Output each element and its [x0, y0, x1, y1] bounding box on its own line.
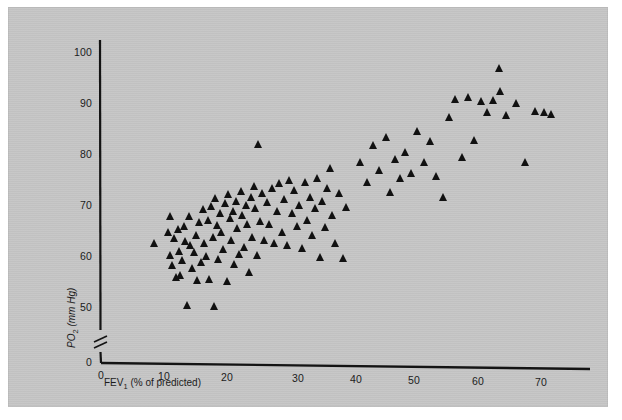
scatter-point	[180, 222, 188, 230]
scatter-point	[175, 247, 183, 255]
scatter-point	[223, 277, 231, 285]
x-axis-title-base: FEV	[104, 377, 123, 388]
scatter-point	[250, 182, 258, 190]
scatter-point	[202, 252, 210, 260]
scatter-point	[386, 188, 394, 196]
scatter-point	[313, 174, 321, 182]
scatter-point	[229, 207, 237, 215]
scatter-point	[270, 239, 278, 247]
scatter-point	[496, 87, 504, 95]
scatter-point	[166, 251, 174, 259]
scatter-point	[439, 193, 447, 201]
scatter-point	[195, 218, 203, 226]
scatter-point	[190, 248, 198, 256]
scatter-point	[477, 97, 485, 105]
scatter-point	[432, 172, 440, 180]
scatter-point	[342, 203, 350, 211]
scatter-point	[308, 231, 316, 239]
y-axis-title-rest: (mm Hg)	[66, 288, 77, 330]
scatter-point	[226, 214, 234, 222]
scatter-point	[512, 99, 520, 107]
x-tick-label-30: 30	[289, 372, 307, 384]
scatter-point	[326, 164, 334, 172]
scatter-point	[323, 184, 331, 192]
x-tick-label-60: 60	[469, 375, 487, 387]
x-tick-label-20: 20	[218, 371, 236, 383]
scatter-point	[265, 220, 273, 228]
scatter-point	[219, 245, 227, 253]
scatter-point	[217, 228, 225, 236]
scatter-point	[166, 212, 174, 220]
scatter-point	[233, 224, 241, 232]
scatter-point	[224, 190, 232, 198]
scatter-point	[445, 113, 453, 121]
scatter-point	[396, 174, 404, 182]
scatter-point	[253, 251, 261, 259]
scatter-point	[521, 158, 529, 166]
scatter-point	[382, 133, 390, 141]
scatter-point	[227, 236, 235, 244]
scatter-point	[263, 198, 271, 206]
scatter-point	[185, 212, 193, 220]
scatter-point	[258, 189, 266, 197]
scatter-point	[183, 301, 191, 309]
scatter-point	[407, 169, 415, 177]
scatter-point	[451, 95, 459, 103]
scatter-point	[375, 166, 383, 174]
x-tick-label-70: 70	[532, 376, 550, 388]
y-tick-label-60: 60	[68, 250, 92, 262]
scatter-point	[290, 186, 298, 194]
scatter-point	[464, 93, 472, 101]
y-tick-label-100: 100	[68, 46, 92, 58]
figure-container: 100 90 80 70 60 50 0 0 10 20 30 40 50 60…	[0, 0, 622, 420]
scatter-point	[238, 211, 246, 219]
scatter-point	[288, 209, 296, 217]
scatter-point	[176, 271, 184, 279]
scatter-point	[242, 201, 250, 209]
scatter-point	[293, 222, 301, 230]
scatter-point	[237, 187, 245, 195]
scatter-point	[295, 201, 303, 209]
y-axis-title-base: PO	[66, 334, 77, 348]
y-tick-label-80: 80	[68, 148, 92, 160]
scatter-point	[458, 153, 466, 161]
x-axis-title: FEV1 (% of predicted)	[104, 377, 201, 391]
scatter-point	[273, 207, 281, 215]
scatter-point	[188, 264, 196, 272]
scatter-point	[207, 202, 215, 210]
scatter-point	[363, 178, 371, 186]
x-axis-title-rest: (% of predicted)	[128, 377, 201, 388]
y-axis-title-subscript: 2	[71, 329, 80, 333]
scatter-point	[328, 211, 336, 219]
scatter-point	[301, 178, 309, 186]
scatter-point	[470, 136, 478, 144]
y-tick-label-0: 0	[68, 356, 92, 368]
scatter-point	[278, 228, 286, 236]
scatter-point	[256, 217, 264, 225]
scatter-point	[298, 244, 306, 252]
scatter-point	[311, 204, 319, 212]
scatter-point	[248, 233, 256, 241]
scatter-point	[426, 137, 434, 145]
scatter-point	[401, 148, 409, 156]
scatter-point	[150, 239, 158, 247]
scatter-point	[178, 256, 186, 264]
scatter-point	[240, 243, 248, 251]
scatter-point	[192, 231, 200, 239]
scatter-point	[232, 197, 240, 205]
scatter-point	[356, 158, 364, 166]
scatter-point	[205, 275, 213, 283]
scatter-point	[335, 189, 343, 197]
scatter-point	[283, 241, 291, 249]
scatter-point	[243, 220, 251, 228]
y-tick-label-90: 90	[68, 97, 92, 109]
scatter-point	[391, 155, 399, 163]
scatter-point	[204, 216, 212, 224]
y-tick-label-70: 70	[68, 199, 92, 211]
scatter-point	[502, 111, 510, 119]
scatter-point	[199, 205, 207, 213]
x-tick-label-50: 50	[405, 374, 423, 386]
scatter-point	[285, 176, 293, 184]
scatter-point	[260, 236, 268, 244]
x-tick-label-40: 40	[347, 373, 365, 385]
